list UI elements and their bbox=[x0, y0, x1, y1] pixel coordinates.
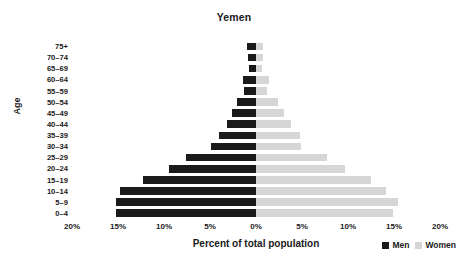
bar-women bbox=[256, 98, 278, 106]
x-axis-tick-label: 20% bbox=[420, 222, 460, 231]
y-axis-tick-label: 35–39 bbox=[22, 130, 68, 141]
x-axis-tick-label: 10% bbox=[144, 222, 184, 231]
pyramid-row bbox=[72, 86, 440, 97]
pyramid-row bbox=[72, 119, 440, 130]
x-axis-tick-label: 0% bbox=[236, 222, 276, 231]
bar-men bbox=[116, 198, 256, 206]
pyramid-row bbox=[72, 163, 440, 174]
x-axis-tick-label: 15% bbox=[374, 222, 414, 231]
bar-women bbox=[256, 198, 398, 206]
bar-men bbox=[237, 98, 256, 106]
legend-item-women: Women bbox=[415, 240, 456, 250]
legend-item-men: Men bbox=[382, 240, 409, 250]
legend-label-men: Men bbox=[392, 240, 409, 250]
pyramid-row bbox=[72, 186, 440, 197]
pyramid-row bbox=[72, 74, 440, 85]
bar-men bbox=[169, 165, 256, 173]
pyramid-row bbox=[72, 41, 440, 52]
pyramid-row bbox=[72, 97, 440, 108]
x-axis-tick-label: 10% bbox=[328, 222, 368, 231]
chart-title: Yemen bbox=[0, 11, 468, 23]
y-axis-tick-label: 0–4 bbox=[22, 208, 68, 219]
x-axis-tick-label: 20% bbox=[52, 222, 92, 231]
pyramid-row bbox=[72, 130, 440, 141]
bar-women bbox=[256, 76, 269, 84]
y-axis-tick-label: 10–14 bbox=[22, 186, 68, 197]
bar-men bbox=[120, 187, 256, 195]
bar-men bbox=[143, 176, 256, 184]
y-axis-tick-label: 30–34 bbox=[22, 141, 68, 152]
y-axis-tick-labels: 75+70–7465–6960–6455–5950–5445–4940–4435… bbox=[20, 41, 68, 219]
legend-label-women: Women bbox=[425, 240, 456, 250]
bar-men bbox=[116, 209, 256, 217]
x-axis-tick-label: 15% bbox=[98, 222, 138, 231]
x-axis-tick-label: 5% bbox=[190, 222, 230, 231]
bar-women bbox=[256, 65, 262, 73]
bar-women bbox=[256, 43, 263, 51]
y-axis-tick-label: 5–9 bbox=[22, 197, 68, 208]
bar-women bbox=[256, 187, 386, 195]
legend-swatch-women-icon bbox=[415, 242, 422, 249]
population-pyramid-chart: Yemen Age 75+70–7465–6960–6455–5950–5445… bbox=[0, 0, 468, 266]
y-axis-tick-label: 70–74 bbox=[22, 52, 68, 63]
y-axis-tick-label: 65–69 bbox=[22, 63, 68, 74]
bar-women bbox=[256, 109, 284, 117]
y-axis-tick-label: 40–44 bbox=[22, 119, 68, 130]
bar-women bbox=[256, 54, 263, 62]
bar-men bbox=[219, 132, 256, 140]
bar-women bbox=[256, 209, 393, 217]
plot-area bbox=[72, 41, 440, 219]
bar-women bbox=[256, 165, 345, 173]
pyramid-row bbox=[72, 108, 440, 119]
bar-women bbox=[256, 132, 300, 140]
pyramid-row bbox=[72, 152, 440, 163]
y-axis-tick-label: 50–54 bbox=[22, 97, 68, 108]
bar-men bbox=[247, 43, 256, 51]
pyramid-row bbox=[72, 175, 440, 186]
chart-legend: Men Women bbox=[382, 240, 456, 250]
y-axis-tick-label: 55–59 bbox=[22, 86, 68, 97]
bar-men bbox=[186, 154, 256, 162]
legend-swatch-men-icon bbox=[382, 242, 389, 249]
bar-men bbox=[243, 76, 256, 84]
y-axis-tick-label: 75+ bbox=[22, 41, 68, 52]
grid-line bbox=[440, 41, 441, 219]
bar-men bbox=[248, 54, 256, 62]
bar-men bbox=[227, 120, 256, 128]
bar-men bbox=[232, 109, 256, 117]
y-axis-tick-label: 60–64 bbox=[22, 74, 68, 85]
bar-men bbox=[211, 143, 256, 151]
pyramid-row bbox=[72, 63, 440, 74]
bar-women bbox=[256, 87, 267, 95]
pyramid-row bbox=[72, 52, 440, 63]
bar-women bbox=[256, 154, 327, 162]
bar-women bbox=[256, 120, 291, 128]
y-axis-tick-label: 20–24 bbox=[22, 163, 68, 174]
pyramid-row bbox=[72, 141, 440, 152]
bar-men bbox=[244, 87, 256, 95]
pyramid-row bbox=[72, 197, 440, 208]
x-axis-tick-label: 5% bbox=[282, 222, 322, 231]
bar-men bbox=[249, 65, 256, 73]
pyramid-row bbox=[72, 208, 440, 219]
bar-women bbox=[256, 143, 301, 151]
y-axis-tick-label: 25–29 bbox=[22, 152, 68, 163]
bar-women bbox=[256, 176, 371, 184]
y-axis-tick-label: 15–19 bbox=[22, 175, 68, 186]
y-axis-tick-label: 45–49 bbox=[22, 108, 68, 119]
